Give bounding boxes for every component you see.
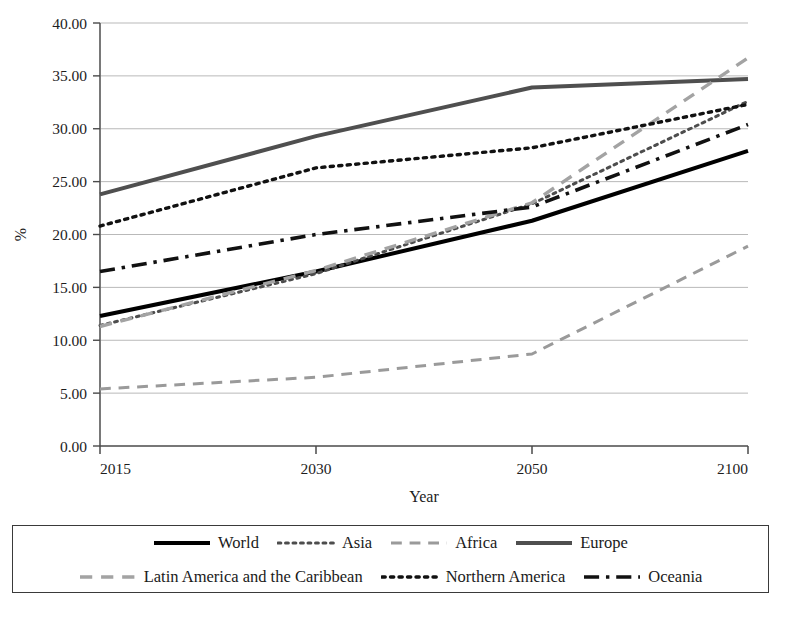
legend-swatch-dashdot-icon: [583, 570, 641, 584]
legend-label: Africa: [455, 535, 497, 552]
y-axis-tick-label: 0.00: [60, 438, 87, 455]
chart-legend: WorldAsiaAfricaEurope Latin America and …: [12, 525, 769, 593]
series-line: [100, 104, 748, 226]
x-axis-tick-labels: 2015203020502100: [100, 460, 748, 477]
legend-swatch-dashed-icon: [390, 536, 448, 550]
series-line: [100, 101, 748, 325]
x-axis-title: Year: [409, 488, 439, 505]
legend-entry[interactable]: Europe: [515, 535, 628, 552]
legend-entry[interactable]: Asia: [277, 535, 372, 552]
legend-swatch-solid-icon: [515, 536, 573, 550]
x-axis-ticks: [100, 446, 748, 454]
series-line: [100, 151, 748, 316]
plot-area: 0.005.0010.0015.0020.0025.0030.0035.0040…: [0, 0, 785, 512]
legend-entry[interactable]: Northern America: [381, 569, 566, 586]
y-axis-tick-label: 40.00: [52, 15, 87, 32]
series-line: [100, 79, 748, 194]
y-axis-tick-label: 10.00: [52, 332, 87, 349]
legend-label: Latin America and the Caribbean: [144, 569, 363, 586]
y-axis-tick-label: 20.00: [52, 226, 87, 243]
legend-label: Europe: [580, 535, 628, 552]
legend-swatch-dotted-icon: [277, 536, 335, 550]
legend-label: Oceania: [648, 569, 702, 586]
x-axis-tick-label: 2030: [301, 460, 332, 477]
y-axis-title: %: [12, 228, 29, 241]
y-axis-tick-label: 30.00: [52, 120, 87, 137]
y-axis-tick-label: 5.00: [60, 385, 87, 402]
series-lines: [100, 58, 748, 389]
legend-row: Latin America and the CaribbeanNorthern …: [13, 560, 768, 594]
legend-label: Asia: [342, 535, 372, 552]
x-axis-tick-label: 2050: [517, 460, 548, 477]
legend-swatch-dashed-icon: [79, 570, 137, 584]
legend-label: Northern America: [446, 569, 566, 586]
legend-swatch-dotted-icon: [381, 570, 439, 584]
series-line: [100, 246, 748, 389]
y-axis-tick-label: 35.00: [52, 67, 87, 84]
y-axis-tick-labels: 0.005.0010.0015.0020.0025.0030.0035.0040…: [52, 15, 87, 455]
chart-figure: 0.005.0010.0015.0020.0025.0030.0035.0040…: [0, 0, 785, 624]
legend-swatch-solid-icon: [153, 536, 211, 550]
legend-row: WorldAsiaAfricaEurope: [13, 526, 768, 560]
y-axis-tick-label: 15.00: [52, 279, 87, 296]
y-axis-tick-label: 25.00: [52, 173, 87, 190]
x-axis-tick-label: 2015: [100, 460, 131, 477]
legend-entry[interactable]: Africa: [390, 535, 497, 552]
gridlines: [100, 23, 748, 393]
x-axis-tick-label: 2100: [717, 460, 748, 477]
chart-svg: 0.005.0010.0015.0020.0025.0030.0035.0040…: [0, 0, 785, 512]
legend-label: World: [218, 535, 259, 552]
legend-entry[interactable]: Oceania: [583, 569, 702, 586]
series-line: [100, 58, 748, 327]
legend-entry[interactable]: Latin America and the Caribbean: [79, 569, 363, 586]
legend-entry[interactable]: World: [153, 535, 259, 552]
y-axis-ticks: [93, 23, 100, 446]
